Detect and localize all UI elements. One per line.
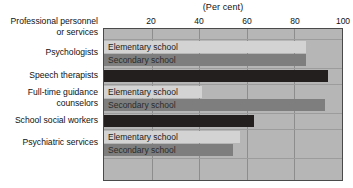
bar-elementary: Elementary school [104, 131, 240, 143]
bar-elementary: Elementary school [104, 41, 306, 53]
plot-area: Elementary schoolSecondary schoolElement… [103, 28, 343, 181]
row-separator [104, 113, 342, 114]
category-label: Psychologists [0, 47, 98, 58]
row-separator [104, 129, 342, 130]
bar-secondary: Secondary school [104, 144, 233, 156]
category-label: Psychiatric services [0, 137, 98, 148]
category-label: School social workers [0, 115, 98, 126]
category-label-line: counselors [0, 98, 98, 109]
bar-elementary: Elementary school [104, 86, 202, 98]
category-label-line: School social workers [0, 115, 98, 126]
category-label-line: Full-time guidance [0, 87, 98, 98]
bar-series-label: Elementary school [104, 86, 178, 98]
axis-header-line: Professional personnel [0, 16, 98, 27]
bar-series-label: Secondary school [104, 99, 176, 111]
category-label-line: Psychologists [0, 47, 98, 58]
x-axis-tick-label: 60 [242, 16, 251, 26]
row-separator [104, 84, 342, 85]
x-axis-tick-label: 40 [194, 16, 203, 26]
x-axis: 20406080100 [103, 16, 343, 28]
bar-secondary: Secondary school [104, 99, 325, 111]
axis-header-line: or services [0, 27, 98, 38]
bar-solid [104, 115, 254, 127]
x-axis-tick-label: 100 [336, 16, 350, 26]
category-label-column: Professional personnelor servicesPsychol… [0, 16, 98, 181]
row-separator [104, 39, 342, 40]
bar-solid [104, 70, 328, 82]
bar-series-label: Secondary school [104, 144, 176, 156]
row-separator [104, 68, 342, 69]
axis-header-label: Professional personnelor services [0, 16, 98, 38]
row-separator [104, 158, 342, 159]
bar-series-label: Elementary school [104, 41, 178, 53]
category-label-line: Psychiatric services [0, 137, 98, 148]
bar-series-label: Secondary school [104, 54, 176, 66]
x-axis-tick-label: 80 [290, 16, 299, 26]
category-label-line: Speech therapists [0, 70, 98, 81]
bar-series-label: Elementary school [104, 131, 178, 143]
category-label: Speech therapists [0, 70, 98, 81]
bar-secondary: Secondary school [104, 54, 306, 66]
chart-title: (Per cent) [103, 2, 343, 12]
x-axis-tick-label: 20 [146, 16, 155, 26]
bar-chart: (Per cent) 20406080100 Professional pers… [0, 0, 353, 188]
category-label: Full-time guidancecounselors [0, 87, 98, 109]
